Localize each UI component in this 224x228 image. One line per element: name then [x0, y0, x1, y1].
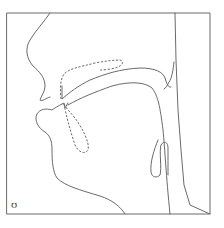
lower-lip-jaw	[36, 104, 125, 214]
upper-lip-nose	[27, 13, 50, 101]
lip-notch	[62, 103, 68, 108]
velum	[164, 62, 174, 89]
vocal-tract-drawing	[0, 0, 224, 228]
lower-teeth-dashed	[64, 104, 88, 152]
phonetic-symbol-label: ʊ	[11, 200, 17, 210]
pharynx-back-wall	[175, 13, 210, 214]
vocal-tract-diagram: ʊ	[0, 0, 224, 228]
palate-velum	[62, 68, 171, 99]
